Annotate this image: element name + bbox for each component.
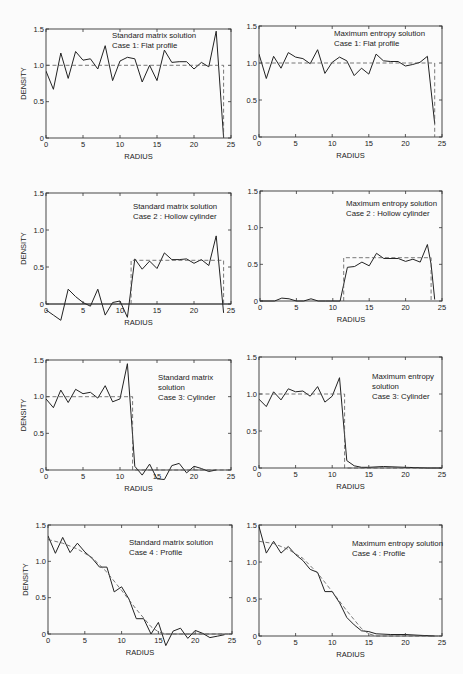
chart-panel-p1: 051015202500.51.01.5RADIUSDENSITYStandar… [19,25,235,162]
x-tick-label: 5 [294,303,298,312]
panel-annotation: Standard matrix solution [112,31,196,40]
x-axis-label: RADIUS [336,482,364,491]
x-tick-label: 20 [191,636,199,645]
x-tick-label: 15 [154,636,162,645]
x-tick-label: 0 [46,636,50,645]
x-tick-label: 25 [438,303,446,312]
panel-annotation: solution [372,382,399,391]
y-tick-label: 0.5 [247,96,257,105]
x-tick-label: 10 [116,140,124,149]
y-tick-label: 1.5 [248,187,258,196]
y-tick-label: 0 [253,464,257,473]
x-tick-label: 20 [401,638,409,647]
x-tick-label: 15 [365,303,373,312]
y-tick-label: 0.5 [36,593,46,602]
chart-panel-p7: 051015202500.51.01.5RADIUSDENSITYStandar… [21,521,236,658]
y-tick-label: 1.0 [36,557,46,566]
y-tick-label: 1.0 [34,392,44,401]
x-tick-label: 0 [257,139,261,148]
y-tick-label: 0.5 [247,595,257,604]
y-tick-label: 0 [40,300,44,309]
x-tick-label: 25 [228,636,236,645]
x-axis-label: RADIUS [124,152,152,161]
x-tick-label: 5 [83,636,87,645]
y-tick-label: 1.0 [247,558,257,567]
y-tick-label: 0.5 [248,260,258,269]
x-tick-label: 0 [257,638,261,647]
x-tick-label: 10 [329,303,337,312]
panel-annotation: Case 2 : Hollow cylinder [346,209,430,218]
x-tick-label: 20 [401,470,409,479]
x-tick-label: 0 [44,140,48,149]
x-tick-label: 25 [438,139,446,148]
panel-annotation: Case 1: Flat profile [112,41,177,50]
y-tick-label: 1.0 [248,223,258,232]
y-axis-label: DENSITY [19,232,28,265]
true-profile-line [259,63,435,137]
x-tick-label: 25 [227,140,235,149]
x-tick-label: 0 [257,470,261,479]
chart-panel-p2: 051015202500.51.01.5RADIUSMaximum entrop… [247,22,447,161]
x-tick-label: 20 [401,303,409,312]
y-tick-label: 0.5 [247,427,257,436]
x-axis-label: RADIUS [126,648,154,657]
x-tick-label: 20 [190,306,198,315]
x-tick-label: 5 [81,472,85,481]
panel-annotation: solution [158,383,185,392]
true-profile-line [344,258,431,301]
x-tick-label: 10 [328,470,336,479]
reconstruction-line [259,50,435,124]
x-tick-label: 0 [44,472,48,481]
y-tick-label: 1.0 [34,61,44,70]
panel-annotation: Standard matrix solution [133,202,217,211]
x-tick-label: 20 [401,139,409,148]
y-axis-label: DENSITY [19,399,28,432]
x-axis-label: RADIUS [124,318,152,327]
panel-annotation: Case 4 : Profile [129,548,182,557]
chart-panel-p5: 051015202500.51.01.5RADIUSDENSITYStandar… [19,356,235,494]
y-tick-label: 0 [253,632,257,641]
y-tick-label: 1.5 [36,521,46,530]
x-tick-label: 10 [328,139,336,148]
panel-annotation: Case 3: Cylinder [158,393,216,402]
x-tick-label: 5 [81,140,85,149]
x-tick-label: 10 [328,638,336,647]
y-tick-label: 0.5 [34,263,44,272]
chart-panel-p8: 051015202500.51.01.5RADIUSMaximum entrop… [247,521,447,660]
x-tick-label: 15 [153,140,161,149]
y-tick-label: 0 [42,630,46,639]
chart-panel-p6: 051015202500.51.01.5RADIUSMaximum entrop… [247,353,447,492]
figure-canvas: 051015202500.51.01.5RADIUSDENSITYStandar… [0,0,463,674]
y-tick-label: 0 [40,466,44,475]
y-tick-label: 1.0 [247,59,257,68]
y-tick-label: 0 [254,297,258,306]
x-tick-label: 5 [294,470,298,479]
y-tick-label: 1.5 [247,22,257,31]
y-axis-label: DENSITY [19,67,28,100]
x-tick-label: 10 [116,472,124,481]
y-axis-label: DENSITY [21,563,30,596]
y-tick-label: 1.5 [34,356,44,365]
panel-annotation: Standard matrix solution [129,538,213,547]
y-tick-label: 0.5 [34,97,44,106]
true-profile-line [46,65,224,138]
x-tick-label: 15 [365,470,373,479]
reconstruction-line [260,245,435,302]
x-tick-label: 10 [117,636,125,645]
panel-annotation: Standard matrix [158,373,213,382]
panel-annotation: Maximum entropy [372,372,434,381]
y-tick-label: 1.5 [34,25,44,34]
x-tick-label: 15 [365,638,373,647]
x-tick-label: 20 [190,140,198,149]
y-tick-label: 1.5 [247,521,257,530]
x-tick-label: 25 [227,472,235,481]
y-tick-label: 1.0 [34,226,44,235]
x-tick-label: 20 [190,472,198,481]
chart-panel-p3: 051015202500.51.01.5RADIUSDENSITYStandar… [19,189,235,328]
x-axis-label: RADIUS [337,315,365,324]
y-tick-label: 1.5 [247,353,257,362]
y-tick-label: 0 [40,134,44,143]
x-tick-label: 15 [153,306,161,315]
true-profile-line [46,397,231,470]
x-tick-label: 0 [258,303,262,312]
